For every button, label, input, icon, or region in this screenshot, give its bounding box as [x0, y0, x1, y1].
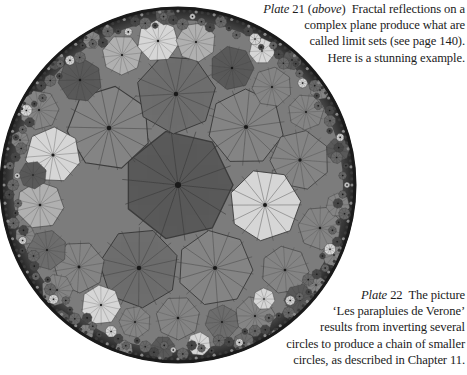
plate-number: 22	[390, 288, 402, 302]
caption-line: circles to produce a chain of smaller	[235, 336, 465, 352]
caption-line: complex plane produce what are	[235, 17, 465, 33]
caption-line: ‘Les parapluies de Verone’	[235, 303, 465, 319]
caption-line: Plate 22 The picture	[235, 287, 465, 303]
plate-21-caption: Plate 21 (above) Fractal reflections on …	[235, 1, 465, 66]
plate-22-caption: Plate 22 The picture ‘Les parapluies de …	[235, 287, 465, 368]
caption-text: Fractal reflections on a	[352, 2, 465, 16]
plate-label: Plate	[263, 2, 289, 16]
plate-number: 21	[292, 2, 304, 16]
caption-line: results from inverting several	[235, 319, 465, 335]
caption-line: called limit sets (see page 140).	[235, 33, 465, 49]
position-word: above	[312, 2, 342, 16]
caption-text: The picture	[408, 288, 465, 302]
caption-line: Plate 21 (above) Fractal reflections on …	[235, 1, 465, 17]
caption-line: Here is a stunning example.	[235, 50, 465, 66]
plate-label: Plate	[361, 288, 387, 302]
caption-line: circles, as described in Chapter 11.	[235, 352, 465, 368]
